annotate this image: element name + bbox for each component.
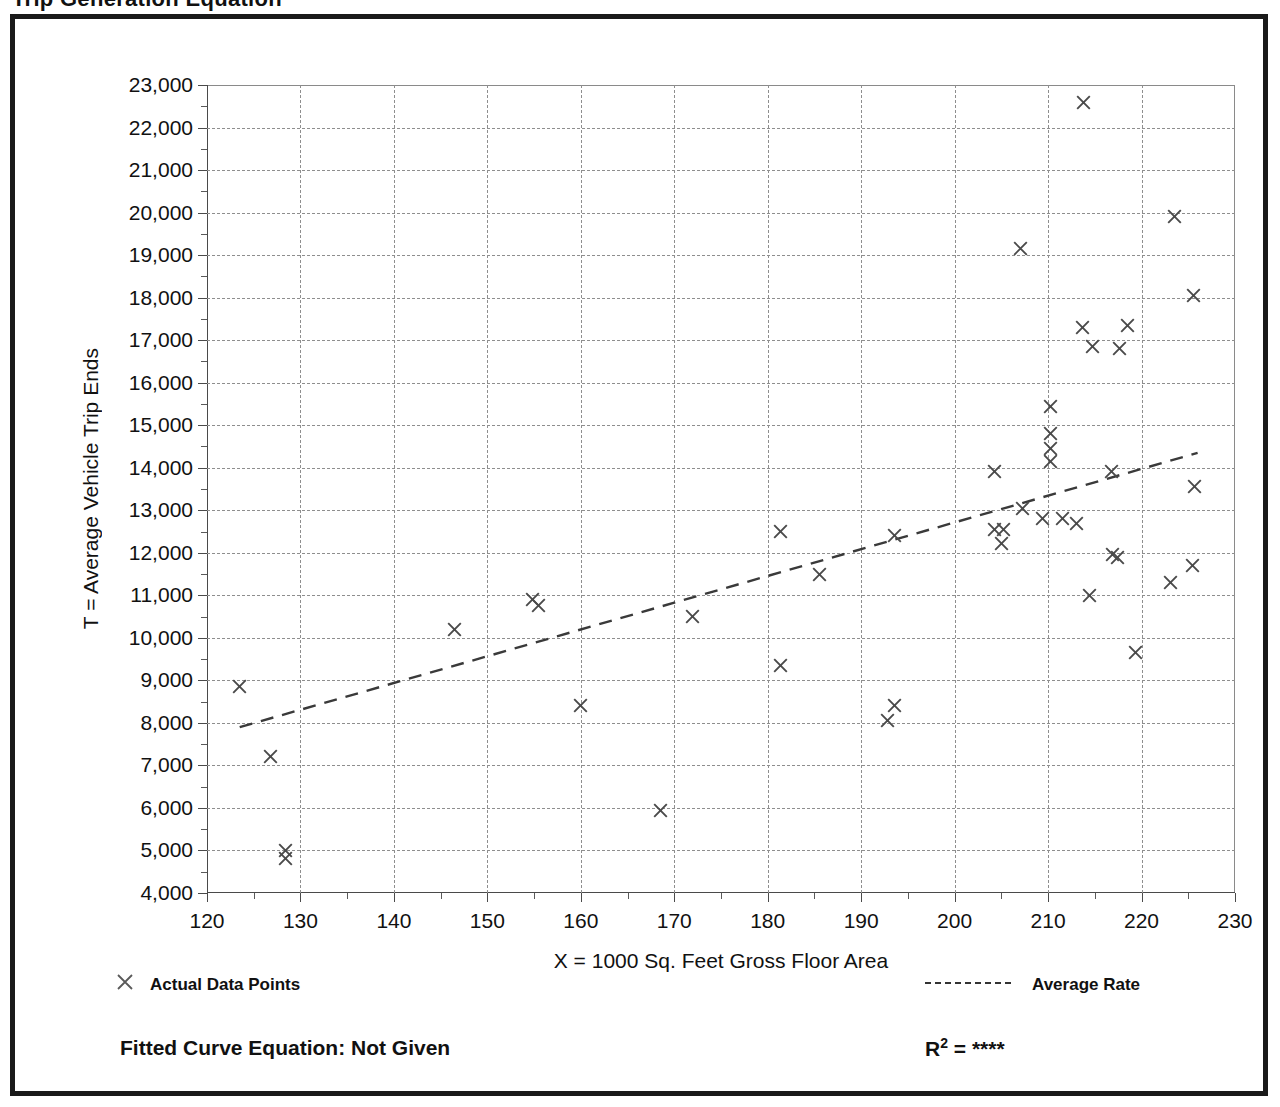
data-point-marker: [772, 523, 789, 540]
data-point-marker: [1162, 574, 1179, 591]
data-point-marker: [1186, 478, 1203, 495]
data-point-marker: [652, 802, 669, 819]
y-axis-tick-label: 20,000: [129, 201, 193, 225]
y-axis-tick-label: 19,000: [129, 243, 193, 267]
data-point-marker: [1184, 557, 1201, 574]
cut-off-title-strip: Trip Generation Equation: [0, 0, 1280, 14]
y-axis-tick: [198, 425, 207, 426]
x-axis-minor-tick: [534, 893, 535, 899]
average-rate-trendline: [207, 85, 1235, 893]
data-point-marker: [1012, 240, 1029, 257]
x-axis-tick: [1235, 893, 1236, 902]
x-axis-title: X = 1000 Sq. Feet Gross Floor Area: [207, 949, 1235, 973]
x-axis-minor-tick: [1095, 893, 1096, 899]
y-axis-tick-label: 5,000: [140, 838, 193, 862]
y-axis-tick: [198, 850, 207, 851]
y-axis-tick: [198, 553, 207, 554]
y-axis-tick: [198, 638, 207, 639]
data-point-marker: [986, 463, 1003, 480]
x-axis-tick-label: 150: [470, 909, 505, 933]
data-point-marker: [1074, 319, 1091, 336]
x-axis-tick-label: 130: [283, 909, 318, 933]
y-axis-title: T = Average Vehicle Trip Ends: [79, 85, 103, 893]
x-axis-tick-label: 210: [1031, 909, 1066, 933]
x-axis-minor-tick: [814, 893, 815, 899]
x-axis-tick: [487, 893, 488, 902]
x-axis-tick-label: 190: [844, 909, 879, 933]
data-point-marker: [1127, 644, 1144, 661]
legend-x-marker-icon: [115, 972, 135, 992]
x-axis-tick: [768, 893, 769, 902]
y-axis-tick: [198, 128, 207, 129]
data-point-marker: [772, 657, 789, 674]
x-axis-tick-label: 230: [1217, 909, 1252, 933]
y-axis-tick: [198, 468, 207, 469]
x-axis-minor-tick: [441, 893, 442, 899]
data-point-marker: [572, 697, 589, 714]
x-axis-tick-label: 200: [937, 909, 972, 933]
chart-page: Trip Generation Equation T = Average Veh…: [0, 0, 1280, 1107]
x-axis-tick: [674, 893, 675, 902]
y-axis-tick-label: 10,000: [129, 626, 193, 650]
legend-label-average-rate: Average Rate: [1032, 975, 1140, 995]
y-axis-tick: [198, 170, 207, 171]
y-axis-tick-label: 12,000: [129, 541, 193, 565]
y-axis-tick: [198, 808, 207, 809]
y-axis-tick-label: 22,000: [129, 116, 193, 140]
y-axis-tick-label: 14,000: [129, 456, 193, 480]
data-point-marker: [1109, 549, 1126, 566]
data-point-marker: [1185, 287, 1202, 304]
y-axis-tick-label: 18,000: [129, 286, 193, 310]
data-point-marker: [1042, 453, 1059, 470]
x-axis-minor-tick: [347, 893, 348, 899]
y-axis-tick: [198, 383, 207, 384]
y-axis-tick: [198, 510, 207, 511]
data-point-marker: [446, 621, 463, 638]
y-axis-tick: [198, 255, 207, 256]
data-point-marker: [684, 608, 701, 625]
data-point-marker: [262, 748, 279, 765]
x-axis-tick-label: 160: [563, 909, 598, 933]
y-axis-tick-label: 23,000: [129, 73, 193, 97]
x-axis-minor-tick: [1188, 893, 1189, 899]
x-axis-tick: [300, 893, 301, 902]
x-axis-tick-label: 140: [376, 909, 411, 933]
data-point-marker: [879, 712, 896, 729]
data-point-marker: [1103, 463, 1120, 480]
y-axis-tick: [198, 340, 207, 341]
r-squared-value: R2 = ****: [925, 1035, 1005, 1061]
y-axis-tick: [198, 595, 207, 596]
y-axis-tick: [198, 213, 207, 214]
x-axis-tick: [861, 893, 862, 902]
x-axis-tick-label: 120: [189, 909, 224, 933]
x-axis-tick: [581, 893, 582, 902]
x-axis-minor-tick: [908, 893, 909, 899]
y-axis-tick: [198, 765, 207, 766]
x-axis-tick-label: 220: [1124, 909, 1159, 933]
x-axis-tick: [955, 893, 956, 902]
y-axis-tick-label: 4,000: [140, 881, 193, 905]
y-axis-tick: [198, 723, 207, 724]
y-axis-tick-label: 8,000: [140, 711, 193, 735]
x-axis-tick: [394, 893, 395, 902]
y-axis-tick-label: 16,000: [129, 371, 193, 395]
y-axis-tick: [198, 680, 207, 681]
chart-frame: T = Average Vehicle Trip Ends 4,0005,000…: [10, 14, 1268, 1096]
y-axis-tick-label: 17,000: [129, 328, 193, 352]
y-axis-tick: [198, 893, 207, 894]
legend-label-actual-data-points: Actual Data Points: [150, 975, 300, 995]
y-axis-tick: [198, 85, 207, 86]
x-axis-tick-label: 170: [657, 909, 692, 933]
data-point-marker: [886, 697, 903, 714]
y-axis-tick-label: 9,000: [140, 668, 193, 692]
x-axis-tick: [207, 893, 208, 902]
x-axis-minor-tick: [1001, 893, 1002, 899]
y-axis-title-text: T = Average Vehicle Trip Ends: [79, 348, 103, 629]
page-title: Trip Generation Equation: [12, 0, 282, 12]
y-axis-tick-label: 11,000: [130, 583, 193, 607]
data-point-marker: [1119, 317, 1136, 334]
data-point-marker: [1081, 587, 1098, 604]
data-point-marker: [1075, 94, 1092, 111]
x-axis-minor-tick: [628, 893, 629, 899]
y-axis-tick-label: 13,000: [129, 498, 193, 522]
